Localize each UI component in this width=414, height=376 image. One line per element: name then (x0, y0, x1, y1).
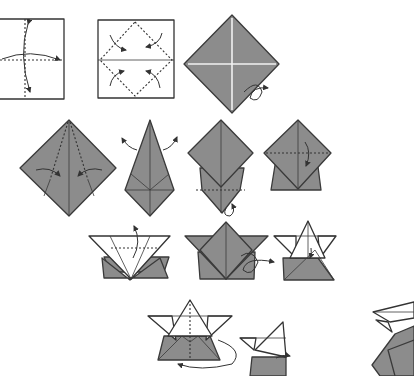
step-1 (0, 19, 64, 99)
step-11 (148, 300, 236, 368)
step-10 (274, 221, 336, 280)
step-9 (185, 222, 274, 279)
unfold-arrow (122, 138, 137, 150)
step-12 (240, 322, 290, 376)
step-3 (184, 15, 279, 113)
step-7 (264, 120, 331, 190)
unfold-arrow (163, 137, 177, 150)
step-4 (20, 120, 116, 216)
origami-diagram (0, 0, 414, 376)
step-6 (188, 120, 253, 216)
step-2 (98, 20, 174, 98)
step-8 (89, 226, 170, 280)
step-13 (372, 302, 414, 376)
step-5 (122, 120, 177, 216)
